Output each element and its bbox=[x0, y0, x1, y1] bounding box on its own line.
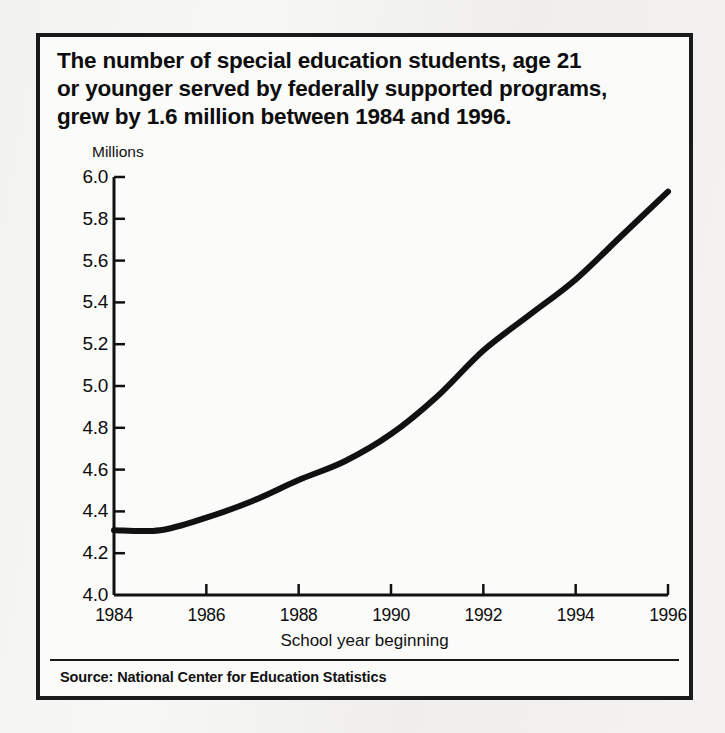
x-tick-label: 1988 bbox=[259, 605, 339, 626]
chart-axes bbox=[114, 177, 668, 595]
source-divider bbox=[50, 659, 679, 661]
chart-tick-marks bbox=[114, 177, 668, 595]
source-note: Source: National Center for Education St… bbox=[60, 669, 386, 685]
x-tick-label: 1992 bbox=[443, 605, 523, 626]
x-tick-label: 1996 bbox=[628, 605, 708, 626]
x-axis-title: School year beginning bbox=[40, 631, 689, 651]
x-tick-label: 1986 bbox=[166, 605, 246, 626]
chart-figure-frame: The number of special education students… bbox=[36, 33, 693, 700]
chart-inner: The number of special education students… bbox=[40, 37, 689, 696]
x-tick-label: 1994 bbox=[536, 605, 616, 626]
x-tick-label: 1990 bbox=[351, 605, 431, 626]
data-line-series bbox=[114, 192, 668, 532]
chart-plot-area bbox=[40, 37, 689, 696]
x-tick-label: 1984 bbox=[74, 605, 154, 626]
